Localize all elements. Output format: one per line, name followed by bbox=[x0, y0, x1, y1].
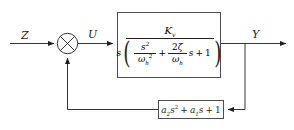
signal-label-u: U bbox=[88, 29, 97, 40]
term2-numerator-symbol: ζ bbox=[178, 42, 183, 52]
denominator-operator-plus: + bbox=[156, 49, 168, 58]
feedback-operator-1: + bbox=[178, 105, 190, 115]
term1-denominator-subscript: h bbox=[145, 60, 149, 66]
signal-label-y: Y bbox=[252, 29, 259, 40]
term1-denominator-exponent: 2 bbox=[149, 53, 153, 59]
term2-variable: s bbox=[187, 49, 194, 58]
denominator-trailing-operator: + bbox=[193, 49, 205, 58]
signal-label-z: Z bbox=[21, 30, 29, 41]
feedback-operator-2: + bbox=[203, 105, 215, 115]
forward-denominator-leading-s: s bbox=[117, 49, 122, 58]
summing-junction-graphic bbox=[57, 33, 77, 53]
block-diagram-canvas: Z U Y Kv s ( bbox=[0, 0, 294, 130]
forward-numerator-subscript: v bbox=[172, 31, 176, 38]
feedback-constant: 1 bbox=[215, 105, 221, 115]
denominator-constant: 1 bbox=[205, 49, 211, 58]
left-paren: ( bbox=[123, 41, 130, 66]
forward-numerator-symbol: K bbox=[165, 25, 172, 36]
feedback-transfer-function-block: a2s2+a1s+1 bbox=[158, 100, 224, 119]
feedback-transfer-function-expression: a2s2+a1s+1 bbox=[161, 105, 221, 115]
forward-transfer-function-expression: Kv s ( s2 bbox=[118, 13, 222, 79]
term2-denominator-subscript: h bbox=[179, 60, 183, 66]
right-paren: ) bbox=[214, 41, 221, 66]
term1-numerator-exponent: 2 bbox=[146, 41, 150, 47]
forward-transfer-function-block: Kv s ( s2 bbox=[117, 12, 221, 78]
